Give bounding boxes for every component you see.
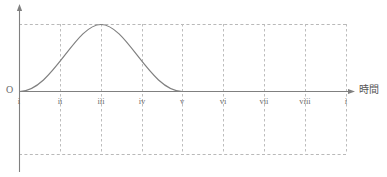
tick-label-vii: vii (251, 96, 277, 106)
tick-label-vi: vi (210, 96, 236, 106)
tick-label-iv: iv (129, 96, 155, 106)
tick-label-viii: viii (292, 96, 318, 106)
tick-label-i-end: i (333, 96, 359, 106)
chart-canvas (0, 0, 387, 177)
origin-label: O (6, 84, 13, 95)
tick-label-iii: iii (88, 96, 114, 106)
tick-label-i: i (6, 96, 32, 106)
x-axis-title: 時間 (359, 84, 379, 96)
y-axis-arrow-icon (17, 4, 22, 11)
x-axis-arrow-icon (348, 89, 355, 94)
tick-label-ii: ii (47, 96, 73, 106)
chart-figure: O 時間 i ii iii iv v vi vii viii i (0, 0, 387, 177)
tick-label-v: v (169, 96, 195, 106)
